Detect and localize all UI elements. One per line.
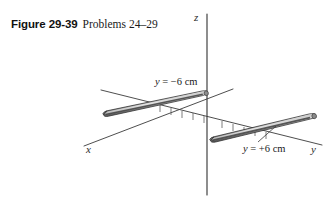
annotation-value: −6 cm bbox=[171, 76, 198, 87]
coordinate-axes-diagram bbox=[0, 0, 336, 203]
rod-y-positive-6cm bbox=[210, 113, 317, 142]
annotation-equals: = bbox=[160, 76, 171, 87]
annotation-y-positive-6cm: y = +6 cm bbox=[243, 144, 285, 155]
y-axis-line bbox=[101, 90, 322, 145]
y-axis-label: y bbox=[311, 144, 316, 155]
annotation-equals: = bbox=[248, 143, 259, 154]
z-axis-label: z bbox=[194, 12, 198, 23]
figure-container: Figure 29-39Problems 24–29 bbox=[0, 0, 336, 203]
annotation-value: +6 cm bbox=[259, 143, 286, 154]
axis-lines bbox=[84, 14, 322, 195]
x-axis-label: x bbox=[86, 144, 91, 155]
annotation-y-negative-6cm: y = −6 cm bbox=[155, 77, 197, 88]
